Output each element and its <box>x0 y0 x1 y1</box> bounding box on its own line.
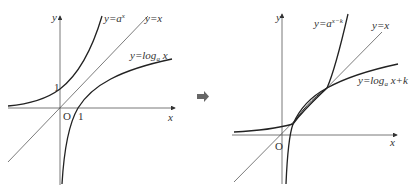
right-arrow-icon <box>197 91 209 102</box>
right-log-label: y=loga x+k <box>357 74 409 88</box>
right-x-axis-label: x <box>389 136 395 148</box>
left-line-label: y=x <box>144 12 162 24</box>
left-line-y-eq-x <box>8 16 148 162</box>
right-graph: y x O y=ax−k y=x y=loga x+k <box>232 11 409 184</box>
right-y-axis-label: y <box>275 11 281 23</box>
right-line-label: y=x <box>371 19 389 31</box>
right-exp-curve <box>286 14 348 184</box>
left-y-axis-label: y <box>51 11 57 23</box>
left-log-label: y=loga x <box>129 49 168 63</box>
left-x-axis-label: x <box>167 111 173 123</box>
left-tick-x-1: 1 <box>78 110 84 122</box>
right-origin-label: O <box>275 140 283 152</box>
left-exp-label: y=ax <box>103 12 126 24</box>
left-tick-y-1: 1 <box>54 81 60 93</box>
diagram-canvas: y x O 1 1 y=ax y=x y=loga x y x O y=ax−k… <box>0 0 418 191</box>
right-exp-label: y=ax−k <box>313 17 344 29</box>
left-graph: y x O 1 1 y=ax y=x y=loga x <box>8 11 175 185</box>
left-origin-label: O <box>63 110 71 122</box>
